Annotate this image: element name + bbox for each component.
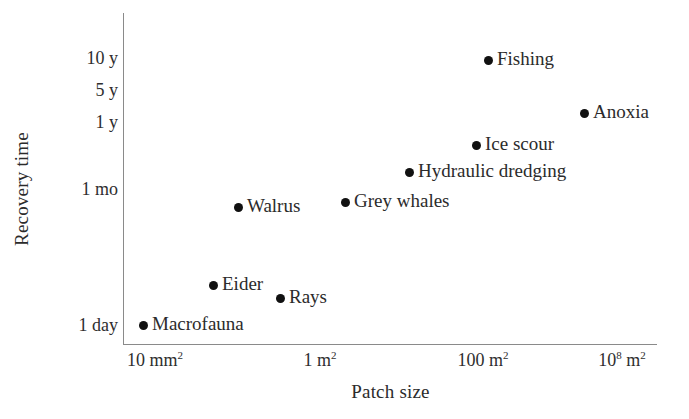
data-point-marker: [341, 198, 350, 207]
x-tick-label-text: 10 mm: [127, 350, 178, 370]
y-tick-label: 1 day: [0, 316, 118, 334]
data-point-label: Rays: [289, 287, 327, 306]
data-point-marker: [484, 56, 493, 65]
data-point-label: Eider: [222, 274, 263, 293]
x-tick-label-exponent: 2: [503, 349, 509, 361]
data-point-marker: [139, 321, 148, 330]
x-tick-label-exponent: 2: [640, 349, 646, 361]
data-point-label: Fishing: [497, 49, 554, 68]
data-point-marker: [209, 281, 218, 290]
data-point-label: Hydraulic dredging: [418, 161, 566, 180]
data-point-label: Walrus: [247, 196, 300, 215]
x-tick-label: 1 m2: [303, 351, 336, 369]
data-point-label: Grey whales: [354, 191, 450, 210]
x-tick-label-unit: m: [622, 350, 641, 370]
x-tick-label-exponent: 2: [178, 349, 184, 361]
recovery-time-vs-patch-size-chart: 10 y 5 y 1 y 1 mo 1 day 10 mm2 1 m2 100 …: [0, 0, 689, 419]
y-axis-line: [123, 13, 124, 345]
data-point-marker: [580, 109, 589, 118]
data-point-marker: [405, 168, 414, 177]
x-tick-label: 10 mm2: [127, 351, 183, 369]
y-axis-title: Recovery time: [11, 89, 33, 289]
data-point-marker: [472, 141, 481, 150]
x-axis-line: [124, 344, 657, 345]
x-tick-label-text: 10: [598, 350, 616, 370]
y-tick-label: 10 y: [0, 49, 118, 67]
x-tick-label-exponent: 2: [331, 349, 337, 361]
x-tick-label-text: 100 m: [457, 350, 503, 370]
x-tick-label: 108 m2: [598, 351, 646, 369]
x-tick-label-text: 1 m: [303, 350, 331, 370]
x-tick-label: 100 m2: [457, 351, 508, 369]
x-axis-title: Patch size: [124, 381, 657, 403]
data-point-marker: [276, 294, 285, 303]
data-point-label: Ice scour: [485, 134, 554, 153]
data-point-label: Macrofauna: [152, 314, 244, 333]
data-point-marker: [234, 203, 243, 212]
data-point-label: Anoxia: [593, 102, 649, 121]
